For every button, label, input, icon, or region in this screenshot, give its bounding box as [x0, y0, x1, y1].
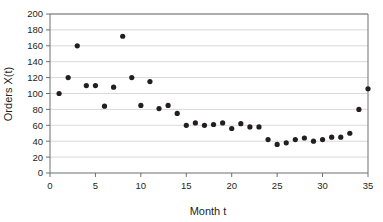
data-point [220, 120, 225, 125]
y-tick-label: 60 [32, 120, 43, 131]
data-point [129, 75, 134, 80]
data-point [293, 137, 298, 142]
x-axis-ticks: 05101520253035 [47, 173, 373, 191]
data-point [265, 137, 270, 142]
y-axis-ticks: 020406080100120140160180200 [27, 8, 50, 178]
data-point [275, 142, 280, 147]
data-point [184, 123, 189, 128]
data-point [256, 124, 261, 129]
x-tick-label: 5 [93, 180, 98, 191]
data-point [202, 123, 207, 128]
data-point [338, 135, 343, 140]
data-point [66, 75, 71, 80]
data-point [193, 120, 198, 125]
data-point [56, 91, 61, 96]
data-point [284, 140, 289, 145]
y-tick-label: 40 [32, 136, 43, 147]
scatter-chart: 05101520253035 0204060801001201401601802… [0, 0, 383, 222]
data-point [166, 103, 171, 108]
data-point [356, 107, 361, 112]
chart-canvas: 05101520253035 0204060801001201401601802… [0, 0, 383, 222]
x-tick-label: 10 [136, 180, 147, 191]
x-axis-title: Month t [190, 205, 227, 217]
data-point [84, 83, 89, 88]
data-point [93, 83, 98, 88]
y-tick-label: 80 [32, 104, 43, 115]
data-point [347, 131, 352, 136]
data-points [56, 34, 370, 147]
data-point [311, 139, 316, 144]
data-point [111, 85, 116, 90]
y-axis-title: Orders X(t) [2, 67, 14, 121]
data-point [175, 111, 180, 116]
data-point [156, 106, 161, 111]
x-tick-label: 35 [363, 180, 374, 191]
y-tick-label: 200 [27, 8, 43, 19]
x-tick-label: 15 [181, 180, 192, 191]
y-tick-label: 160 [27, 40, 43, 51]
data-point [138, 103, 143, 108]
data-point [75, 43, 80, 48]
x-tick-label: 25 [272, 180, 283, 191]
data-point [102, 104, 107, 109]
data-point [147, 79, 152, 84]
data-point [211, 122, 216, 127]
y-tick-label: 120 [27, 72, 43, 83]
data-point [302, 135, 307, 140]
data-point [247, 124, 252, 129]
x-tick-label: 0 [47, 180, 52, 191]
data-point [238, 121, 243, 126]
y-tick-label: 100 [27, 88, 43, 99]
y-tick-label: 180 [27, 24, 43, 35]
data-point [120, 34, 125, 39]
x-tick-label: 20 [226, 180, 237, 191]
data-point [320, 137, 325, 142]
y-tick-label: 140 [27, 56, 43, 67]
data-point [365, 86, 370, 91]
y-tick-label: 20 [32, 152, 43, 163]
data-point [229, 126, 234, 131]
data-point [329, 135, 334, 140]
y-tick-label: 0 [38, 167, 43, 178]
x-tick-label: 30 [317, 180, 328, 191]
